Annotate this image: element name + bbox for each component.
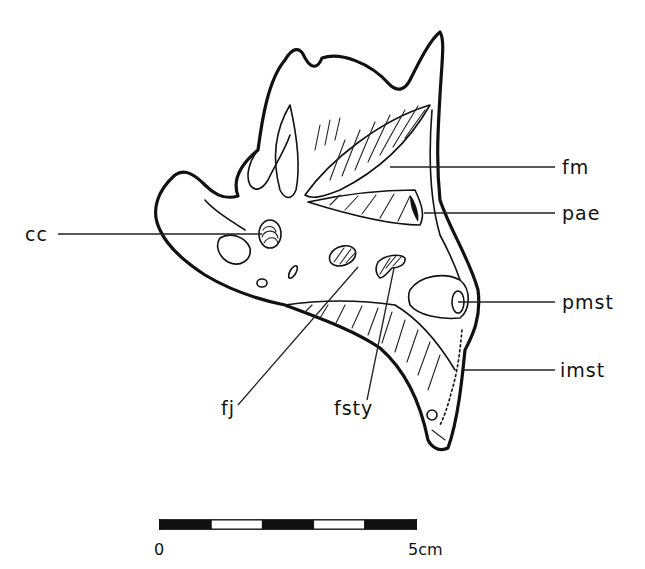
pae-hatching <box>330 194 410 221</box>
label-pmst: pmst <box>562 291 614 313</box>
scale-bar-start-label: 0 <box>154 540 164 559</box>
fm-hatching <box>315 106 425 180</box>
scale-bar-end-label: 5cm <box>408 540 443 559</box>
small-oval-2 <box>257 279 267 287</box>
scale-bar-segment-black <box>160 520 211 529</box>
fsty-foramen <box>376 255 405 278</box>
label-imst: imst <box>560 359 605 381</box>
label-fj: fj <box>221 397 235 419</box>
crest-detail <box>248 135 290 189</box>
bone-drawing <box>156 32 479 450</box>
imst-knob <box>427 410 437 420</box>
label-cc: cc <box>25 223 48 245</box>
ridge-line <box>276 105 298 198</box>
lower-flange-line <box>285 301 455 370</box>
fm-fossa-outline <box>305 105 430 197</box>
leader-fsty <box>367 268 394 400</box>
cc-condyle <box>259 220 281 248</box>
label-pae: pae <box>562 202 600 224</box>
bone-outline-main <box>156 32 479 450</box>
scale-bar-segment-white <box>211 520 262 529</box>
scale-bar-segments <box>160 520 416 529</box>
scale-bar: 0 5cm <box>154 519 443 559</box>
posterior-ridge <box>430 110 460 280</box>
scale-bar-segment-black <box>365 520 416 529</box>
labels: cc fm pae pmst imst fj fsty <box>25 156 614 419</box>
left-lobe-inner <box>205 200 245 230</box>
anatomical-figure: cc fm pae pmst imst fj fsty 0 5cm <box>0 0 645 569</box>
scale-bar-segment-white <box>314 520 365 529</box>
pae-dark-groove <box>410 195 418 222</box>
scale-bar-segment-black <box>262 520 313 529</box>
small-oval-1 <box>287 264 299 279</box>
label-fm: fm <box>562 156 589 178</box>
leader-fj <box>238 267 358 405</box>
leader-lines <box>58 167 555 405</box>
label-fsty: fsty <box>334 397 373 419</box>
left-lobe-detail <box>218 235 251 264</box>
cc-hatching <box>262 226 278 243</box>
